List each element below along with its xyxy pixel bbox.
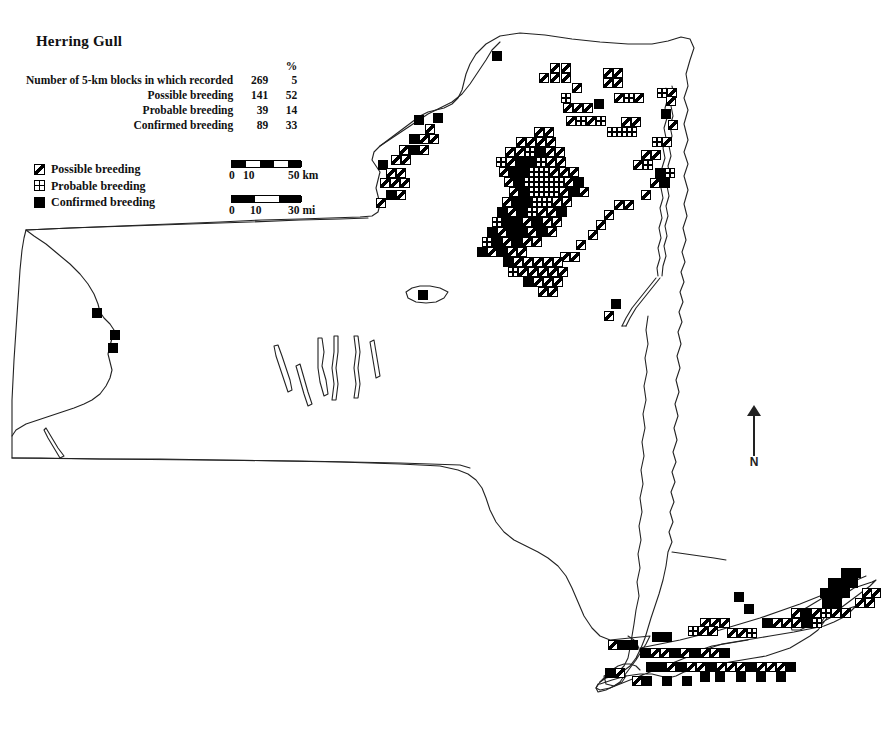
stats-label: Number of 5-km blocks in which recorded [26, 74, 242, 89]
possible-breeding-icon [614, 200, 624, 210]
legend-item-possible: Possible breeding [34, 162, 155, 176]
confirmed-breeding-icon [746, 662, 756, 672]
probable-breeding-icon [643, 160, 653, 170]
possible-breeding-icon [666, 662, 676, 672]
confirmed-breeding-icon [492, 237, 502, 247]
statistics-table: % Number of 5-km blocks in which recorde… [26, 60, 297, 134]
confirmed-breeding-icon [516, 157, 526, 167]
possible-breeding-icon [533, 257, 543, 267]
possible-breeding-icon [791, 608, 801, 618]
possible-breeding-icon [603, 78, 613, 88]
possible-breeding-icon [686, 662, 696, 672]
possible-breeding-icon [425, 124, 435, 134]
possible-breeding-icon [547, 207, 557, 217]
possible-breeding-icon [569, 167, 579, 177]
possible-breeding-icon [604, 311, 614, 321]
probable-breeding-icon [688, 626, 698, 636]
probable-breeding-icon [539, 187, 549, 197]
possible-breeding-icon [506, 157, 516, 167]
confirmed-breeding-icon [840, 588, 850, 598]
stats-count: 89 [242, 119, 268, 134]
confirmed-breeding-icon [700, 672, 710, 682]
confirmed-breeding-icon [801, 608, 811, 618]
probable-breeding-icon [34, 180, 45, 191]
percent-header: % [268, 60, 297, 74]
probable-breeding-icon [627, 127, 637, 137]
confirmed-breeding-icon [574, 177, 584, 187]
possible-breeding-icon [539, 73, 549, 83]
possible-breeding-icon [556, 157, 566, 167]
possible-breeding-icon [668, 120, 678, 130]
confirmed-breeding-icon [517, 207, 527, 217]
possible-breeding-icon [390, 178, 400, 188]
scale-mi-start: 0 [229, 204, 235, 216]
possible-breeding-icon [550, 63, 560, 73]
confirmed-breeding-icon [830, 588, 840, 598]
confirmed-breeding-icon [670, 648, 680, 658]
confirmed-breeding-icon [660, 178, 670, 188]
possible-breeding-icon [533, 277, 543, 287]
possible-breeding-icon [542, 217, 552, 227]
possible-breeding-icon [517, 247, 527, 257]
possible-breeding-icon [553, 277, 563, 287]
stats-row-probable: Probable breeding 39 14 [26, 104, 297, 119]
possible-breeding-icon [553, 257, 563, 267]
possible-breeding-icon [34, 164, 45, 175]
probable-breeding-icon [524, 177, 534, 187]
possible-breeding-icon [545, 147, 555, 157]
possible-breeding-icon [527, 227, 537, 237]
confirmed-breeding-icon [477, 247, 487, 257]
possible-breeding-icon [604, 210, 614, 220]
possible-breeding-icon [522, 217, 532, 227]
possible-breeding-icon [641, 190, 651, 200]
possible-breeding-icon [401, 155, 411, 165]
possible-breeding-icon [549, 167, 559, 177]
stats-count: 269 [242, 74, 268, 89]
possible-breeding-icon [716, 662, 726, 672]
probable-breeding-icon [527, 207, 537, 217]
confirmed-breeding-icon [640, 648, 650, 658]
probable-breeding-icon [561, 93, 571, 103]
possible-breeding-icon [537, 207, 547, 217]
possible-breeding-icon [376, 198, 386, 208]
confirmed-breeding-icon [594, 99, 604, 109]
possible-breeding-icon [811, 608, 821, 618]
confirmed-breeding-icon [569, 187, 579, 197]
scale-bar-km: 0 10 50 km [231, 160, 327, 183]
possible-breeding-icon [497, 227, 507, 237]
confirmed-breeding-icon [497, 247, 507, 257]
confirmed-breeding-icon [802, 618, 812, 628]
possible-breeding-icon [680, 648, 690, 658]
probable-breeding-icon [624, 93, 634, 103]
possible-breeding-icon [561, 73, 571, 83]
legend-label: Possible breeding [51, 163, 140, 175]
confirmed-breeding-icon [628, 640, 638, 650]
confirmed-breeding-icon [532, 217, 542, 227]
confirmed-breeding-icon [756, 672, 766, 682]
scale-bars: 0 10 50 km 0 10 30 mi [231, 160, 327, 218]
possible-breeding-icon [536, 137, 546, 147]
possible-breeding-icon [391, 155, 401, 165]
possible-breeding-icon [507, 207, 517, 217]
map-legend: Possible breeding Probable breeding Conf… [34, 162, 155, 212]
confirmed-breeding-icon [652, 632, 662, 642]
stats-row-possible: Possible breeding 141 52 [26, 89, 297, 104]
probable-breeding-icon [576, 116, 586, 126]
confirmed-breeding-icon [409, 145, 419, 155]
atlas-map-page: Herring Gull % Number of 5-km blocks in … [0, 0, 888, 739]
probable-breeding-icon [554, 177, 564, 187]
north-label: N [741, 455, 767, 469]
scale-bar-mi: 0 10 30 mi [231, 195, 327, 218]
probable-breeding-icon [596, 116, 606, 126]
possible-breeding-icon [548, 267, 558, 277]
confirmed-breeding-icon [92, 308, 102, 318]
possible-breeding-icon [502, 197, 512, 207]
possible-breeding-icon [538, 267, 548, 277]
confirmed-breeding-icon [414, 115, 424, 125]
possible-breeding-icon [621, 117, 631, 127]
possible-breeding-icon [737, 628, 747, 638]
confirmed-breeding-icon [526, 157, 536, 167]
confirmed-breeding-icon [618, 640, 628, 650]
possible-breeding-icon [400, 178, 410, 188]
possible-breeding-icon [419, 134, 429, 144]
